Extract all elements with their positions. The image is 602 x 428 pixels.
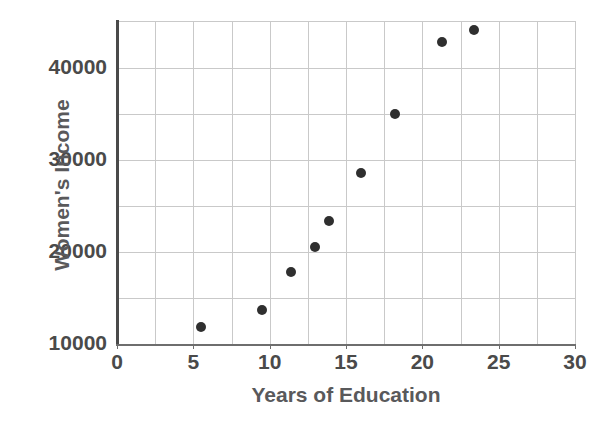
gridline-vertical bbox=[461, 22, 462, 344]
x-axis-tick bbox=[346, 344, 347, 349]
x-axis-tick bbox=[193, 344, 194, 349]
x-axis-title: Years of Education bbox=[117, 383, 575, 407]
y-axis-title: Women's Income bbox=[50, 35, 74, 335]
x-tick-label: 25 bbox=[469, 350, 529, 374]
x-axis-tick bbox=[575, 344, 576, 349]
plot-frame-top bbox=[117, 21, 576, 22]
data-point bbox=[324, 216, 334, 226]
gridline-vertical bbox=[346, 22, 347, 344]
gridline-vertical bbox=[308, 22, 309, 344]
gridline-horizontal bbox=[117, 114, 575, 115]
data-point bbox=[257, 305, 267, 315]
x-axis-tick bbox=[270, 344, 271, 349]
x-tick-label: 5 bbox=[163, 350, 223, 374]
gridline-horizontal bbox=[117, 206, 575, 207]
gridline-vertical bbox=[384, 22, 385, 344]
gridline-vertical bbox=[155, 22, 156, 344]
gridline-vertical bbox=[232, 22, 233, 344]
x-tick-label: 20 bbox=[392, 350, 452, 374]
y-axis-line bbox=[116, 20, 119, 346]
gridline-horizontal bbox=[117, 252, 575, 253]
x-tick-label: 10 bbox=[240, 350, 300, 374]
data-point bbox=[196, 322, 206, 332]
scatter-plot-figure: 051015202530 10000200003000040000 Years … bbox=[0, 0, 602, 428]
gridline-vertical bbox=[537, 22, 538, 344]
gridline-vertical bbox=[422, 22, 423, 344]
gridline-vertical bbox=[193, 22, 194, 344]
gridline-horizontal bbox=[117, 160, 575, 161]
data-point bbox=[390, 109, 400, 119]
gridline-vertical bbox=[499, 22, 500, 344]
x-axis-tick bbox=[422, 344, 423, 349]
x-tick-label: 15 bbox=[316, 350, 376, 374]
gridline-horizontal bbox=[117, 298, 575, 299]
x-axis-tick bbox=[499, 344, 500, 349]
plot-frame-right bbox=[575, 21, 576, 344]
x-axis-tick bbox=[117, 344, 118, 349]
chart-title bbox=[0, 0, 602, 3]
gridline-vertical bbox=[270, 22, 271, 344]
x-tick-label: 30 bbox=[545, 350, 602, 374]
gridline-horizontal bbox=[117, 68, 575, 69]
